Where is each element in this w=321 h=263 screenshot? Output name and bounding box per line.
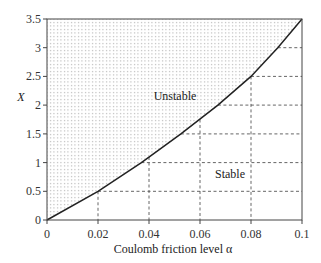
y-tick-label: 1.5 xyxy=(26,127,41,141)
y-tick-label: 0 xyxy=(35,213,41,227)
y-tick-label: 3 xyxy=(35,41,41,55)
y-tick-label: 2 xyxy=(35,98,41,112)
y-axis-ticks xyxy=(43,19,47,220)
y-tick-label: 3.5 xyxy=(26,12,41,26)
x-axis-ticks xyxy=(47,220,302,224)
x-tick-label: 0.1 xyxy=(295,227,310,241)
x-axis-label: Coulomb friction level α xyxy=(114,242,233,256)
y-tick-label: 1 xyxy=(35,156,41,170)
y-tick-label: 2.5 xyxy=(26,69,41,83)
stability-chart: 0 0.5 1 1.5 2 2.5 3 3.5 0 0.02 0.04 0.06… xyxy=(0,0,321,263)
x-tick-label: 0.06 xyxy=(190,227,211,241)
y-tick-label: 0.5 xyxy=(26,184,41,198)
stable-label: Stable xyxy=(215,167,245,181)
unstable-label: Unstable xyxy=(154,89,197,103)
x-tick-label: 0.02 xyxy=(88,227,109,241)
y-tick-labels: 0 0.5 1 1.5 2 2.5 3 3.5 xyxy=(26,12,41,227)
y-axis-label: X xyxy=(16,90,25,104)
x-tick-label: 0.04 xyxy=(139,227,160,241)
unstable-region xyxy=(47,19,302,220)
x-tick-labels: 0 0.02 0.04 0.06 0.08 0.1 xyxy=(44,227,310,241)
x-tick-label: 0 xyxy=(44,227,50,241)
x-tick-label: 0.08 xyxy=(241,227,262,241)
